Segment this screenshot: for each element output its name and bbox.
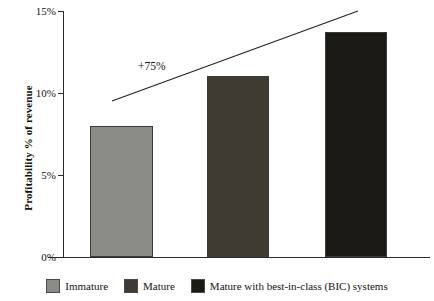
y-tick-label-5: 5%: [16, 170, 56, 181]
legend-item-mature-bic: Mature with best-in-class (BIC) systems: [191, 279, 388, 293]
bar-mature-bic: [325, 32, 387, 257]
bar-immature: [90, 126, 153, 257]
profitability-bar-chart: Profitability % of revenue 15% 10% 5% 0%…: [0, 0, 434, 301]
y-tick-mark-15: [58, 11, 63, 12]
legend-item-immature: Immature: [46, 279, 108, 293]
y-tick-label-15: 15%: [16, 6, 56, 17]
legend-label-mature: Mature: [143, 280, 175, 292]
bar-mature: [207, 76, 269, 257]
y-axis-tick-labels: 15% 10% 5% 0%: [14, 0, 56, 301]
y-tick-label-10: 10%: [16, 88, 56, 99]
legend-swatch-mature-icon: [124, 279, 138, 293]
legend-label-immature: Immature: [65, 280, 108, 292]
x-axis-line: [48, 257, 430, 258]
y-tick-mark-0: [58, 257, 63, 258]
y-axis-line: [63, 11, 64, 258]
growth-annotation-label: +75%: [138, 60, 166, 72]
y-tick-mark-5: [58, 175, 63, 176]
legend-swatch-mature-bic-icon: [191, 279, 205, 293]
legend-swatch-immature-icon: [46, 279, 60, 293]
y-tick-mark-10: [58, 93, 63, 94]
legend-label-mature-bic: Mature with best-in-class (BIC) systems: [210, 280, 388, 292]
chart-legend: Immature Mature Mature with best-in-clas…: [0, 274, 434, 298]
legend-item-mature: Mature: [124, 279, 175, 293]
